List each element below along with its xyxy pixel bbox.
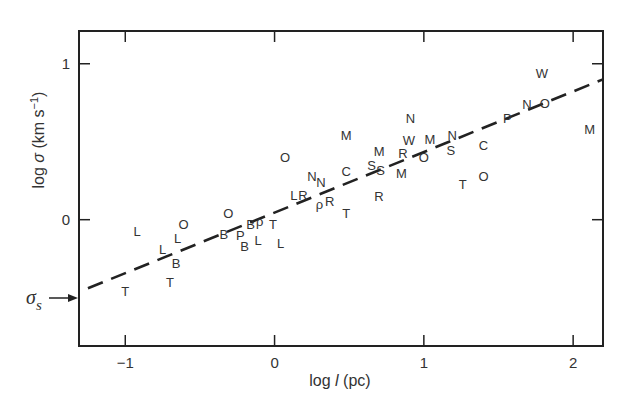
data-point: W — [403, 133, 416, 148]
data-point: C — [479, 138, 488, 153]
sigma-s-annotation: σs — [26, 286, 78, 313]
data-points: LOLLBTTOBPBBρTLLOLRNNρRTCMSSMRMRWNOMNSTO… — [121, 66, 595, 299]
x-tick-label: −1 — [117, 354, 134, 371]
data-point: L — [277, 236, 284, 251]
data-point: O — [479, 169, 489, 184]
tick-labels: −101201 — [62, 55, 578, 371]
sigma-s-label: σs — [26, 286, 42, 313]
data-point: S — [376, 163, 385, 178]
data-point: O — [419, 150, 429, 165]
data-point: T — [166, 275, 174, 290]
data-point: L — [134, 224, 141, 239]
data-point: B — [240, 239, 249, 254]
data-point: P — [503, 111, 512, 126]
data-point: B — [246, 217, 255, 232]
data-point: L — [290, 188, 297, 203]
data-point: C — [342, 164, 351, 179]
data-point: L — [159, 242, 166, 257]
data-point: M — [374, 144, 385, 159]
y-tick-label: 1 — [62, 55, 70, 72]
plot-frame — [79, 31, 603, 346]
data-point: ρ — [256, 214, 263, 229]
data-point: N — [406, 111, 415, 126]
x-axis-label: log l (pc) — [309, 372, 370, 389]
data-point: B — [172, 256, 181, 271]
data-point: S — [367, 158, 376, 173]
data-point: W — [536, 66, 549, 81]
data-point: L — [255, 233, 262, 248]
y-tick-label: 0 — [62, 211, 70, 228]
x-tick-label: 0 — [270, 354, 278, 371]
axis-ticks — [79, 31, 603, 346]
data-point: R — [325, 194, 334, 209]
x-tick-label: 2 — [569, 354, 577, 371]
data-point: S — [446, 143, 455, 158]
data-point: O — [540, 96, 550, 111]
data-point: T — [269, 217, 277, 232]
data-point: M — [396, 166, 407, 181]
y-axis-label: log σ (km s−1) — [28, 92, 47, 189]
data-point: M — [424, 132, 435, 147]
data-point: N — [448, 128, 457, 143]
data-point: R — [374, 189, 383, 204]
data-point: N — [522, 97, 531, 112]
x-tick-label: 1 — [420, 354, 428, 371]
data-point: T — [459, 177, 467, 192]
data-point: O — [223, 206, 233, 221]
data-point: N — [316, 175, 325, 190]
data-point: M — [341, 128, 352, 143]
data-point: O — [178, 217, 188, 232]
data-point: M — [584, 122, 595, 137]
data-point: T — [342, 206, 350, 221]
data-point: R — [298, 188, 307, 203]
data-point: T — [121, 284, 129, 299]
data-point: L — [174, 231, 181, 246]
data-point: B — [219, 227, 228, 242]
scatter-chart: −101201 LOLLBTTOBPBBρTLLOLRNNρRTCMSSMRMR… — [0, 0, 628, 412]
arrow-right-icon — [68, 294, 78, 302]
data-point: O — [280, 150, 290, 165]
data-point: ρ — [316, 197, 323, 212]
